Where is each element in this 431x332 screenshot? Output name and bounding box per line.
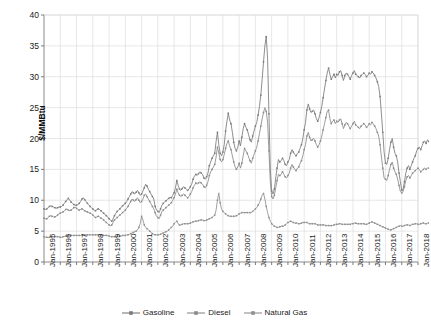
x-tick-label: Jan-2014 xyxy=(356,234,365,267)
legend-item-diesel[interactable]: Diesel xyxy=(187,308,230,317)
x-tick-label: Jan-2000 xyxy=(129,234,138,267)
x-tick-label: Jan-2001 xyxy=(145,234,154,267)
legend-line-marker-icon xyxy=(187,309,205,317)
legend-label: Diesel xyxy=(208,308,230,317)
chart-legend: GasolineDieselNatural Gas xyxy=(0,308,429,317)
x-tick-label: Jan-2012 xyxy=(324,234,333,267)
x-tick-label: Jan-2008 xyxy=(259,234,268,267)
x-tick-label: Jan-2005 xyxy=(210,234,219,267)
legend-item-natural-gas[interactable]: Natural Gas xyxy=(244,308,308,317)
x-tick-label: Jan-2009 xyxy=(275,234,284,267)
x-tick-label: Jan-2018 xyxy=(422,234,431,267)
x-tick-label: Jan-1999 xyxy=(113,234,122,267)
x-tick-label: Jan-2017 xyxy=(405,234,414,267)
x-tick-label: Jan-2003 xyxy=(178,234,187,267)
x-tick-label: Jan-2011 xyxy=(308,234,317,267)
legend-label: Gasoline xyxy=(143,308,175,317)
legend-item-gasoline[interactable]: Gasoline xyxy=(122,308,175,317)
x-tick-label: Jan-2013 xyxy=(340,234,349,267)
legend-label: Natural Gas xyxy=(265,308,308,317)
x-tick-label: Jan-2010 xyxy=(291,234,300,267)
legend-line-marker-icon xyxy=(244,309,262,317)
legend-line-marker-icon xyxy=(122,309,140,317)
x-tick-label: Jan-1998 xyxy=(96,234,105,267)
x-tick-label: Jan-2016 xyxy=(389,234,398,267)
x-tick-label: Jan-1995 xyxy=(48,234,57,267)
x-tick-label: Jan-1997 xyxy=(80,234,89,267)
x-tick-label: Jan-1996 xyxy=(64,234,73,267)
x-tick-label: Jan-2006 xyxy=(226,234,235,267)
x-tick-label: Jan-2004 xyxy=(194,234,203,267)
x-tick-label: Jan-2007 xyxy=(243,234,252,267)
x-tick-label: Jan-2002 xyxy=(161,234,170,267)
x-tick-label: Jan-2015 xyxy=(373,234,382,267)
